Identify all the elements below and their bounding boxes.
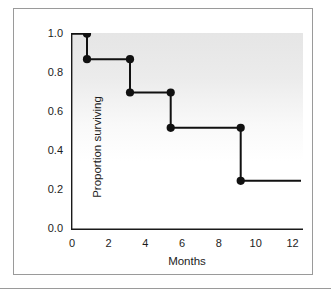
x-axis-title: Months <box>71 255 303 267</box>
xtick-label-0: 0 <box>57 237 87 249</box>
event-marker <box>83 33 91 38</box>
event-marker <box>237 177 245 185</box>
bottom-divider <box>0 288 331 289</box>
xtick-label-12: 12 <box>278 237 308 249</box>
ytick-label-0_6: 0.6 <box>23 105 63 117</box>
event-markers <box>83 33 245 185</box>
ytick-label-0_2: 0.2 <box>23 183 63 195</box>
event-marker <box>167 88 175 96</box>
xtick-label-10: 10 <box>241 237 271 249</box>
xtick-label-6: 6 <box>167 237 197 249</box>
event-marker <box>237 124 245 132</box>
event-marker <box>167 124 175 132</box>
step-function-line <box>72 34 301 181</box>
event-marker <box>83 55 91 63</box>
ytick-label-0_0: 0.0 <box>23 222 63 234</box>
event-marker <box>126 55 134 63</box>
ytick-label-1_0: 1.0 <box>23 27 63 39</box>
xtick-label-2: 2 <box>94 237 124 249</box>
ytick-label-0_8: 0.8 <box>23 66 63 78</box>
xtick-label-8: 8 <box>204 237 234 249</box>
event-marker <box>126 88 134 96</box>
y-axis-title: Proportion surviving <box>91 67 103 227</box>
ytick-label-0_4: 0.4 <box>23 144 63 156</box>
plot-area: 1.0 0.8 0.6 0.4 0.2 0.0 0 2 4 6 8 10 12 … <box>71 33 303 230</box>
xtick-label-4: 4 <box>130 237 160 249</box>
survival-curve <box>71 33 303 230</box>
figure-root: 1.0 0.8 0.6 0.4 0.2 0.0 0 2 4 6 8 10 12 … <box>0 0 331 297</box>
